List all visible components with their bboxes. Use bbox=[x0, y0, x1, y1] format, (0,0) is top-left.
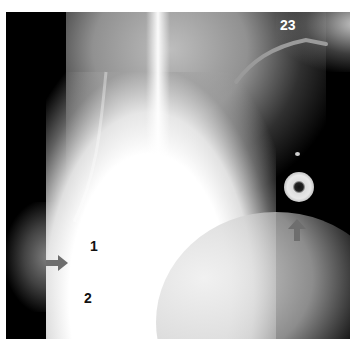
panel-number: 23 bbox=[280, 17, 296, 33]
label-1: 1 bbox=[90, 238, 98, 254]
radiograph-figure: 23 1 2 bbox=[6, 12, 350, 339]
device-ring bbox=[284, 172, 314, 202]
label-2: 2 bbox=[84, 290, 92, 306]
arrow-right-icon bbox=[46, 255, 68, 271]
device-marker-dot bbox=[295, 152, 300, 156]
arrow-up-icon bbox=[288, 219, 306, 241]
